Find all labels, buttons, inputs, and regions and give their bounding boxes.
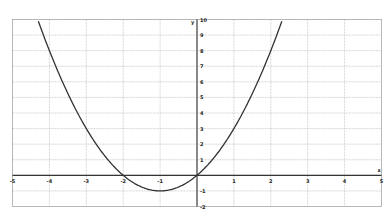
- x-tick-label: -1: [157, 178, 163, 184]
- y-tick-label: 6: [200, 79, 204, 85]
- y-tick-label: 4: [200, 110, 204, 116]
- y-tick-label: 8: [200, 48, 204, 54]
- x-tick-label: 2: [269, 178, 273, 184]
- x-tick-label: 5: [380, 178, 384, 184]
- x-tick-label: -3: [84, 178, 90, 184]
- y-tick-label: 5: [200, 94, 204, 100]
- x-tick-label: -2: [120, 178, 126, 184]
- x-tick-label: -4: [47, 178, 53, 184]
- x-tick-label: 3: [306, 178, 310, 184]
- x-tick-label: -5: [10, 178, 16, 184]
- y-tick-label: 7: [200, 63, 204, 69]
- y-tick-label: 3: [200, 126, 204, 132]
- y-tick-label: 9: [200, 32, 204, 38]
- x-tick-label: 4: [343, 178, 347, 184]
- x-axis-label: x: [378, 167, 382, 173]
- function-plot: -5-4-3-2-11234510987654321-1-2 x y: [0, 0, 390, 224]
- y-tick-label: -1: [200, 188, 206, 194]
- x-tick-label: 1: [232, 178, 236, 184]
- y-tick-label: 10: [200, 17, 207, 23]
- y-tick-label: -2: [200, 204, 206, 210]
- y-tick-label: 1: [200, 157, 204, 163]
- y-tick-label: 2: [200, 141, 204, 147]
